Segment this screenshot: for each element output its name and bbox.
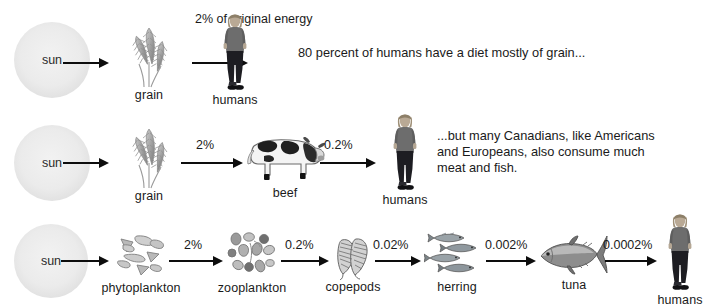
arrow-head <box>213 256 223 266</box>
arrow-head <box>99 158 109 168</box>
node-herring-row3: herring <box>424 230 490 280</box>
node-label-humans: humans <box>657 293 702 306</box>
arrow-beef-to-humans-row2 <box>320 158 376 168</box>
arrow-shaft <box>320 162 366 164</box>
arrow-shaft <box>169 260 213 262</box>
percent-tuna-to-humans-row3: 0.0002% <box>603 238 652 252</box>
arrow-sun-to-phytoplankton-row3 <box>61 256 109 266</box>
percent-herring-to-tuna-row3: 0.002% <box>485 238 527 252</box>
node-copepods-row3: copepods <box>330 234 376 280</box>
cow-icon <box>244 130 326 186</box>
arrow-shaft <box>605 260 647 262</box>
arrow-sun-to-grain-row2 <box>63 158 109 168</box>
node-label-tuna: tuna <box>562 278 587 292</box>
human-figure-icon <box>660 213 700 291</box>
arrow-shaft <box>181 162 233 164</box>
arrow-shaft <box>63 62 99 64</box>
arrow-head <box>366 158 376 168</box>
zooplankton-icon <box>224 231 280 281</box>
herring-school-icon <box>424 230 490 280</box>
node-label-beef: beef <box>273 186 298 200</box>
node-label-grain: grain <box>135 189 163 203</box>
arrow-phytoplankton-to-zooplankton-row3 <box>169 256 223 266</box>
node-label-copepods: copepods <box>325 280 380 294</box>
food-chain-figure: sun <box>0 0 705 306</box>
node-label-grain: grain <box>135 88 163 102</box>
node-zooplankton-row3: zooplankton <box>224 231 280 281</box>
arrow-shaft <box>375 260 411 262</box>
node-grain-row2: grain <box>117 127 181 189</box>
node-label-humans: humans <box>382 193 427 207</box>
human-figure-icon <box>385 113 425 191</box>
arrow-shaft <box>281 260 319 262</box>
arrow-shaft <box>63 162 99 164</box>
arrow-shaft <box>61 260 99 262</box>
node-humans-row3: humans <box>660 213 700 291</box>
arrow-head <box>647 256 657 266</box>
arrow-sun-to-grain-row1 <box>63 58 109 68</box>
node-label-humans: humans <box>212 93 257 107</box>
arrow-zooplankton-to-copepods-row3 <box>281 256 329 266</box>
percent-zoo-to-copepods-row3: 0.2% <box>285 238 314 252</box>
arrow-copepods-to-herring-row3 <box>375 256 421 266</box>
percent-grain-to-beef-row2: 2% <box>196 138 214 152</box>
node-phytoplankton-row3: phytoplankton <box>113 233 169 281</box>
node-tuna-row3: tuna <box>537 232 611 278</box>
arrow-head <box>526 256 536 266</box>
node-humans-row1: humans <box>215 13 255 91</box>
arrow-head <box>233 158 243 168</box>
tuna-icon <box>537 232 611 278</box>
percent-phyto-to-zoo-row3: 2% <box>184 238 202 252</box>
phytoplankton-icon <box>113 233 169 281</box>
arrow-tuna-to-humans-row3 <box>605 256 657 266</box>
arrow-head <box>411 256 421 266</box>
node-label-zooplankton: zooplankton <box>218 281 287 295</box>
arrow-grain-to-beef-row2 <box>181 158 243 168</box>
copepod-icon <box>330 234 376 280</box>
arrow-herring-to-tuna-row3 <box>486 256 536 266</box>
arrow-head <box>99 256 109 266</box>
grain-icon <box>117 26 181 88</box>
arrow-head <box>319 256 329 266</box>
grain-icon <box>117 127 181 189</box>
percent-copepods-to-herring-row3: 0.02% <box>373 238 408 252</box>
node-label-phytoplankton: phytoplankton <box>101 281 180 295</box>
arrow-head <box>99 58 109 68</box>
caption-row2: ...but many Canadians, like Americans an… <box>437 128 699 176</box>
human-figure-icon <box>215 13 255 91</box>
arrow-shaft <box>486 260 526 262</box>
percent-beef-to-humans-row2: 0.2% <box>324 138 353 152</box>
node-beef-row2: beef <box>244 130 326 186</box>
node-humans-row2: humans <box>385 113 425 191</box>
node-label-herring: herring <box>437 280 477 294</box>
caption-row1: 80 percent of humans have a diet mostly … <box>298 45 698 61</box>
node-grain-row1: grain <box>117 26 181 88</box>
